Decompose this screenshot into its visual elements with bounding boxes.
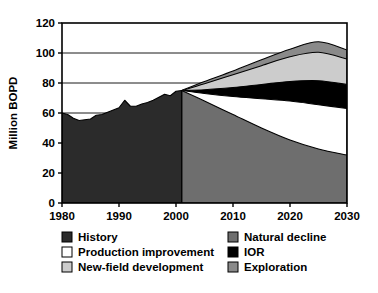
legend-swatch-exploration: [228, 262, 238, 272]
y-axis-title: Million BOPD: [7, 77, 19, 150]
legend-label-history: History: [78, 231, 118, 243]
legend-item-new-field-development[interactable]: New-field development: [62, 261, 203, 273]
legend-swatch-history: [62, 232, 72, 242]
ytick-label-20: 20: [42, 167, 55, 179]
legend-label-ior: IOR: [244, 246, 265, 258]
xtick-label-2000: 2000: [163, 210, 189, 222]
xtick-label-2010: 2010: [220, 210, 246, 222]
legend-swatch-natural-decline: [228, 232, 238, 242]
legend-label-exploration: Exploration: [244, 261, 307, 273]
legend-label-natural-decline: Natural decline: [244, 231, 326, 243]
legend-swatch-ior: [228, 247, 238, 257]
legend-swatch-new-field-development: [62, 262, 72, 272]
legend-swatch-production-improvement: [62, 247, 72, 257]
xtick-label-1990: 1990: [106, 210, 132, 222]
xtick-label-2030: 2030: [334, 210, 360, 222]
xtick-label-2020: 2020: [277, 210, 303, 222]
legend-item-history[interactable]: History: [62, 231, 118, 243]
chart-figure: 020406080100120 198019902000201020202030…: [0, 0, 378, 293]
ytick-label-60: 60: [42, 107, 55, 119]
xtick-label-1980: 1980: [49, 210, 75, 222]
legend-item-production-improvement[interactable]: Production improvement: [62, 246, 214, 258]
legend-label-production-improvement: Production improvement: [78, 246, 214, 258]
oil-production-outlook-chart: 020406080100120 198019902000201020202030…: [0, 0, 378, 293]
legend-item-ior[interactable]: IOR: [228, 246, 265, 258]
ytick-label-100: 100: [36, 47, 55, 59]
ytick-label-80: 80: [42, 77, 55, 89]
ytick-label-0: 0: [49, 197, 55, 209]
legend-label-new-field-development: New-field development: [78, 261, 203, 273]
ytick-label-40: 40: [42, 137, 55, 149]
ytick-label-120: 120: [36, 17, 55, 29]
